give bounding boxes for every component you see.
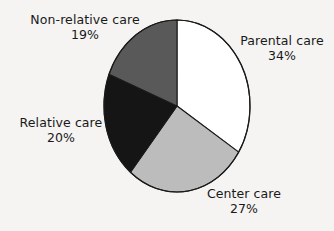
pie-label-relative-care-name: Relative care bbox=[6, 115, 116, 130]
pie-label-relative-care: Relative care 20% bbox=[6, 115, 116, 146]
pie-label-center-care-percent: 27% bbox=[186, 201, 302, 216]
pie-label-non-relative-care-name: Non-relative care bbox=[14, 12, 156, 27]
pie-label-relative-care-percent: 20% bbox=[6, 130, 116, 145]
pie-label-parental-care: Parental care 34% bbox=[232, 33, 332, 64]
pie-slices bbox=[104, 20, 250, 192]
pie-label-center-care: Center care 27% bbox=[186, 186, 302, 217]
pie-label-center-care-name: Center care bbox=[186, 186, 302, 201]
pie-label-parental-care-percent: 34% bbox=[232, 48, 332, 63]
pie-chart-figure: Non-relative care 19% Parental care 34% … bbox=[0, 0, 334, 231]
pie-label-non-relative-care: Non-relative care 19% bbox=[14, 12, 156, 43]
pie-label-non-relative-care-percent: 19% bbox=[14, 27, 156, 42]
pie-label-parental-care-name: Parental care bbox=[232, 33, 332, 48]
